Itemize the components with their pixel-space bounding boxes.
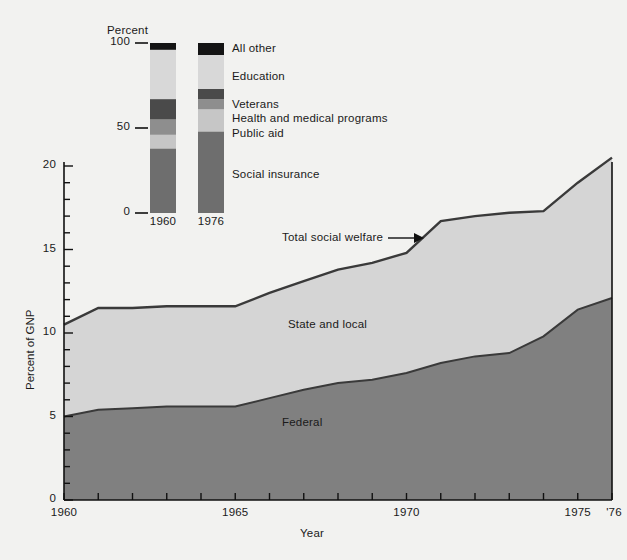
annotation-federal: Federal — [282, 416, 322, 428]
inset-bar-1960 — [150, 43, 176, 213]
x-axis-title: Year — [300, 527, 324, 539]
inset-y-tick-100: 100 — [0, 35, 130, 47]
legend-label-all-other: All other — [232, 42, 276, 54]
inset-segment — [150, 50, 176, 99]
inset-segment — [150, 43, 176, 50]
y-tick-label-15: 15 — [0, 242, 56, 254]
legend-label-education: Education — [232, 70, 285, 82]
chart-figure: 20 15 10 5 0 1960 1965 1970 1975 '76 Yea… — [0, 0, 627, 560]
inset-segment — [150, 148, 176, 213]
annotation-state-and-local: State and local — [288, 318, 367, 330]
x-tick-label-1970: 1970 — [393, 506, 419, 518]
annotation-total-social-welfare: Total social welfare — [282, 231, 383, 243]
y-axis-title: Percent of GNP — [24, 309, 36, 390]
legend-label-public-aid: Public aid — [232, 127, 284, 139]
y-tick-label-5: 5 — [0, 409, 56, 421]
legend-label-health-and-medical: Health and medical programs — [232, 112, 388, 124]
y-tick-label-20: 20 — [0, 158, 56, 170]
x-tick-label-1976: '76 — [606, 506, 622, 518]
inset-bar-label-1976: 1976 — [198, 215, 224, 227]
x-tick-label-1965: 1965 — [222, 506, 248, 518]
inset-segment — [150, 99, 176, 119]
inset-segment — [150, 120, 176, 135]
inset-segment — [150, 135, 176, 149]
inset-y-tick-0: 0 — [0, 205, 130, 217]
inset-bar-label-1960: 1960 — [150, 215, 176, 227]
inset-y-tick-50: 50 — [0, 120, 130, 132]
legend-swatch-all-other — [198, 43, 224, 55]
main-area-chart — [0, 0, 627, 560]
inset-segment — [198, 109, 224, 131]
x-tick-label-1960: 1960 — [51, 506, 77, 518]
legend-label-social-insurance: Social insurance — [232, 168, 320, 180]
legend-label-veterans: Veterans — [232, 98, 279, 110]
inset-segment — [198, 89, 224, 99]
y-tick-label-0: 0 — [0, 492, 56, 504]
inset-segment — [198, 99, 224, 109]
inset-bar-1976 — [198, 43, 224, 213]
x-tick-label-1975: 1975 — [565, 506, 591, 518]
inset-segment — [198, 131, 224, 213]
inset-segment — [198, 50, 224, 89]
